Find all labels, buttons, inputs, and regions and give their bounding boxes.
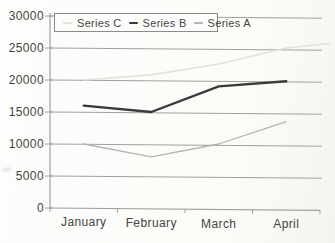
y-tick-label: 5000	[16, 169, 44, 183]
legend-marker-series-a	[194, 22, 203, 24]
legend-label: Series C	[77, 17, 122, 29]
chart-canvas: 050001000015000200002500030000JanuaryFeb…	[0, 0, 335, 243]
legend-item-series-b: Series B	[129, 17, 187, 29]
legend-marker-series-b	[129, 22, 138, 24]
legend-marker-series-c	[63, 22, 72, 24]
y-tick-label: 25000	[9, 41, 44, 55]
legend-item-series-c: Series C	[63, 17, 122, 29]
y-tick-label: 15000	[9, 105, 44, 119]
y-tick-label: 20000	[9, 73, 44, 87]
series-a-line	[84, 122, 287, 157]
legend-label: Series A	[208, 17, 251, 29]
y-tick-label: 10000	[9, 137, 44, 151]
scanned-line-chart: 050001000015000200002500030000JanuaryFeb…	[0, 0, 335, 243]
x-tick-label: March	[201, 217, 236, 231]
y-tick-label: 30000	[9, 9, 44, 23]
x-tick-label: February	[126, 216, 177, 230]
gridline	[50, 176, 322, 178]
x-tick-label: January	[61, 215, 107, 229]
legend-label: Series B	[143, 17, 187, 29]
chart-legend: Series CSeries BSeries A	[54, 13, 218, 32]
y-tick-label: 0	[37, 201, 44, 215]
legend-item-series-a: Series A	[194, 17, 251, 29]
series-b-line	[84, 81, 287, 112]
gridline	[50, 112, 322, 114]
x-tick-label: April	[273, 217, 299, 231]
